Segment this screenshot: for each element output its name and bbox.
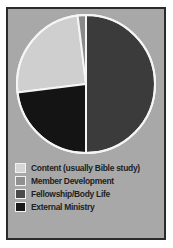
chart-legend: Content (usually Bible study) Member Dev… xyxy=(15,161,163,213)
pie-slice xyxy=(17,16,86,93)
legend-swatch-content xyxy=(15,163,26,173)
pie-slice xyxy=(18,84,86,153)
legend-item-content: Content (usually Bible study) xyxy=(15,161,163,174)
pie-slice xyxy=(86,15,155,153)
legend-swatch-member-development xyxy=(15,176,26,186)
legend-label-content: Content (usually Bible study) xyxy=(31,163,140,173)
legend-label-external-ministry: External Ministry xyxy=(31,202,94,212)
chart-frame: Content (usually Bible study) Member Dev… xyxy=(6,7,166,240)
pie-chart-svg xyxy=(12,12,160,158)
legend-item-fellowship-body-life: Fellowship/Body Life xyxy=(15,187,163,200)
legend-item-member-development: Member Development xyxy=(15,174,163,187)
legend-swatch-fellowship-body-life xyxy=(15,189,26,199)
pie-slices-group xyxy=(17,15,155,153)
legend-label-fellowship-body-life: Fellowship/Body Life xyxy=(31,189,110,199)
pie-chart-figure: Content (usually Bible study) Member Dev… xyxy=(0,0,173,248)
legend-label-member-development: Member Development xyxy=(31,176,114,186)
pie-chart-area xyxy=(8,9,164,159)
legend-item-external-ministry: External Ministry xyxy=(15,200,163,213)
legend-swatch-external-ministry xyxy=(15,202,26,212)
